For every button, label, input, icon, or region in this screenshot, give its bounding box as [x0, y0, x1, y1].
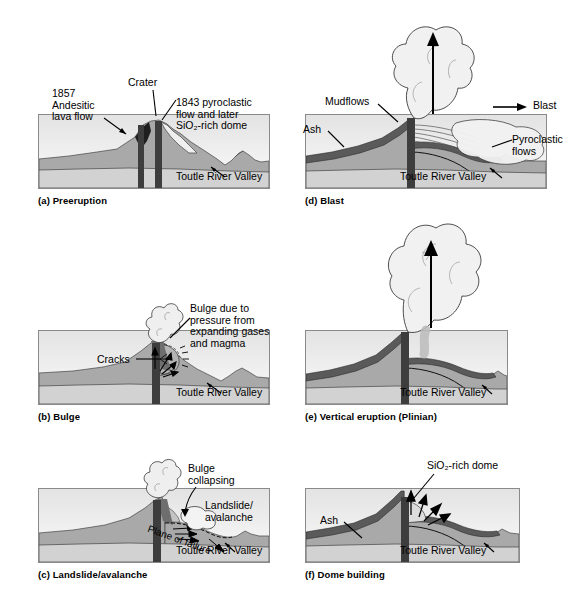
label-crater: Crater: [128, 77, 157, 89]
label-bulge-collapsing: Bulge collapsing: [188, 463, 235, 486]
leader-sio2-rich-dome: [410, 472, 440, 504]
label-1843-pyroclastic-dome: 1843 pyroclastic flow and later SiO₂-ric…: [176, 97, 252, 132]
label-bulge-pressure: Bulge due to pressure from expanding gas…: [190, 303, 269, 349]
label-landslide-avalanche: Landslide/ avalanche: [205, 500, 253, 523]
leader-bulge-collapsing: [168, 485, 200, 521]
caption-panel-c: (c) Landslide/avalanche: [38, 569, 147, 580]
caption-panel-d: (d) Blast: [305, 195, 344, 206]
caption-panel-e: (e) Vertical eruption (Plinian): [305, 411, 437, 422]
label-sio2-rich-dome: SiO₂-rich dome: [427, 460, 498, 472]
leader-mudflows: [378, 104, 404, 126]
leader-ash-d: [328, 131, 350, 151]
label-ash-f: Ash: [320, 515, 338, 527]
label-1857-andesitic-lava-flow: 1857 Andesitic lava flow: [52, 88, 95, 123]
label-toutle-river-valley-e: Toutle River Valley: [400, 387, 486, 399]
label-ash-d: Ash: [303, 124, 321, 136]
eruption-column-e: [360, 212, 480, 334]
caption-panel-b: (b) Bulge: [38, 411, 80, 422]
leader-pyroclastic-dome: [160, 98, 180, 134]
leader-lava-flow: [104, 118, 148, 142]
label-toutle-river-valley-d: Toutle River Valley: [400, 171, 486, 183]
leader-bulge-pressure: [168, 318, 194, 344]
caption-panel-f: (f) Dome building: [305, 569, 385, 580]
label-toutle-river-valley-b: Toutle River Valley: [176, 387, 262, 399]
label-toutle-river-valley-f: Toutle River Valley: [400, 545, 486, 557]
label-pyroclastic-flows: Pyroclastic flows: [512, 134, 563, 157]
label-toutle-river-valley-a: Toutle River Valley: [176, 171, 262, 183]
leader-cracks: [136, 352, 168, 366]
label-blast: Blast: [533, 100, 556, 112]
leader-pyroclastic-flows: [490, 138, 516, 152]
arrow-blast: [493, 100, 531, 114]
label-cracks: Cracks: [97, 354, 130, 366]
caption-panel-a: (a) Preeruption: [38, 195, 107, 206]
label-toutle-river-valley-c: Toutle River Valley: [176, 545, 262, 557]
leader-ash-f: [344, 520, 368, 542]
label-mudflows: Mudflows: [325, 96, 369, 108]
